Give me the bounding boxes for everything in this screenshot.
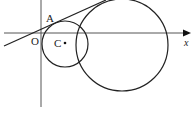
label-origin: O: [31, 35, 39, 47]
label-x-axis: x: [183, 37, 189, 48]
label-a: A: [46, 12, 54, 24]
large-circle: [76, 0, 168, 91]
geometry-diagram: A O C x: [0, 0, 192, 139]
center-point-c: [64, 42, 67, 45]
x-axis-arrow-icon: [183, 30, 191, 37]
label-center-c: C: [54, 37, 61, 49]
